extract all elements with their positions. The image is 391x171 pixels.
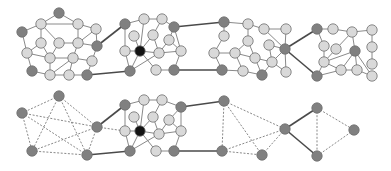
graph-node-light <box>336 65 346 75</box>
graph-node-dark <box>169 65 179 75</box>
graph-node-light <box>164 115 174 125</box>
graph-node-light <box>129 112 139 122</box>
graph-node-light <box>157 95 167 105</box>
graph-node-light <box>54 38 64 48</box>
dashed-edge <box>22 96 59 113</box>
graph-node-light <box>148 30 158 40</box>
graph-node-light <box>328 24 338 34</box>
graph-node-dark <box>82 150 92 160</box>
graph-node-dark <box>280 44 290 54</box>
graph-node-dark <box>120 19 130 29</box>
graph-node-light <box>87 56 97 66</box>
graph-node-light <box>157 14 167 24</box>
bridge-edge <box>87 71 130 75</box>
graph-node-dark <box>27 66 37 76</box>
bridge-edge <box>181 101 224 107</box>
dashed-edge <box>317 108 354 130</box>
graph-node-light <box>347 27 357 37</box>
bridge-edge <box>285 108 317 129</box>
graph-node-dark <box>257 70 267 80</box>
dashed-edge <box>59 96 87 155</box>
dashed-edge <box>222 101 224 151</box>
graph-node-light <box>331 44 341 54</box>
graph-node-light <box>219 31 229 41</box>
dashed-edge <box>222 129 285 151</box>
graph-node-light <box>36 19 46 29</box>
graph-node-light <box>319 41 329 51</box>
graph-node-dark <box>120 100 130 110</box>
graph-node-dark <box>217 65 227 75</box>
graph-node-light <box>367 42 377 52</box>
graph-node-light <box>230 48 240 58</box>
graph-node-light <box>367 71 377 81</box>
graph-node-light <box>45 70 55 80</box>
dashed-edge <box>59 96 97 127</box>
graph-node-light <box>73 19 83 29</box>
bridge-edge <box>285 129 317 156</box>
graph-node-dark <box>17 108 27 118</box>
graph-node-dark <box>219 96 229 106</box>
graph-node-dark <box>312 103 322 113</box>
graph-node-dark <box>257 150 267 160</box>
graph-node-light <box>259 24 269 34</box>
graph-node-light <box>352 65 362 75</box>
graph-node-dark <box>312 151 322 161</box>
graph-node-dark <box>54 91 64 101</box>
dashed-edge <box>224 101 285 129</box>
bottom-graph <box>17 91 359 161</box>
bridge-edge <box>174 22 224 27</box>
graph-node-light <box>120 46 130 56</box>
graph-node-light <box>22 48 32 58</box>
graph-node-light <box>64 70 74 80</box>
graph-node-light <box>176 126 186 136</box>
graph-node-dark <box>312 71 322 81</box>
dashed-edge <box>32 151 87 155</box>
graph-node-dark <box>92 122 102 132</box>
graph-node-light <box>91 24 101 34</box>
graph-node-dark <box>169 146 179 156</box>
graph-node-light <box>243 36 253 46</box>
dashed-edge <box>22 113 32 151</box>
graph-node-light <box>176 46 186 56</box>
graph-node-dark <box>125 146 135 156</box>
bridge-edge <box>87 151 130 155</box>
graph-node-light <box>264 40 274 50</box>
graph-node-light <box>73 38 83 48</box>
graph-node-light <box>148 112 158 122</box>
graph-node-dark <box>169 22 179 32</box>
graph-node-dark <box>176 102 186 112</box>
bottom-graph-dashed-edges <box>22 96 354 156</box>
graph-node-dark <box>217 146 227 156</box>
graph-node-light <box>281 67 291 77</box>
graph-node-light <box>267 57 277 67</box>
dashed-edge <box>317 130 354 156</box>
graph-node-light <box>139 14 149 24</box>
graph-node-light <box>367 25 377 35</box>
graph-node-light <box>151 65 161 75</box>
graph-node-light <box>243 19 253 29</box>
graph-node-light <box>139 95 149 105</box>
graph-node-black <box>135 126 145 136</box>
graph-node-dark <box>312 24 322 34</box>
graph-node-dark <box>27 146 37 156</box>
dashed-edge <box>224 101 262 155</box>
dashed-edge <box>22 113 97 127</box>
graph-node-light <box>250 53 260 63</box>
graph-node-light <box>209 48 219 58</box>
graph-node-black <box>135 46 145 56</box>
graph-node-dark <box>349 125 359 135</box>
dashed-edge <box>32 127 97 151</box>
dashed-edge <box>222 151 262 155</box>
graph-node-light <box>164 35 174 45</box>
graph-node-light <box>45 53 55 63</box>
graph-node-light <box>154 129 164 139</box>
graph-node-dark <box>350 46 360 56</box>
bottom-graph-edges <box>125 100 181 151</box>
graph-node-dark <box>92 41 102 51</box>
graph-node-dark <box>82 70 92 80</box>
graph-node-light <box>281 24 291 34</box>
graph-node-light <box>129 31 139 41</box>
graph-node-light <box>36 38 46 48</box>
graph-node-dark <box>125 66 135 76</box>
graph-node-dark <box>219 17 229 27</box>
